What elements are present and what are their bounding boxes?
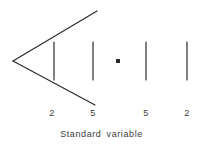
center-point-marker	[116, 59, 120, 63]
tick-label-4: 2	[177, 108, 197, 119]
tick-label-2: 5	[83, 108, 103, 119]
tick-label-1: 2	[42, 108, 62, 119]
x-axis-caption: Standard variable	[0, 129, 203, 140]
plot-svg	[0, 0, 203, 147]
figure-container: 2 5 5 2 Standard variable	[0, 0, 203, 147]
angle-upper-arm	[13, 11, 97, 61]
tick-label-3: 5	[136, 108, 156, 119]
